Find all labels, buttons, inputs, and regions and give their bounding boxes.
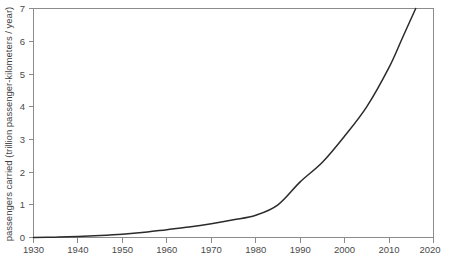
x-tick-label-2010: 2010 <box>379 244 400 255</box>
x-tick-label-1960: 1960 <box>156 244 177 255</box>
x-tick-label-1970: 1970 <box>201 244 222 255</box>
x-tick-label-2000: 2000 <box>334 244 355 255</box>
chart-background <box>0 0 449 270</box>
y-tick-label-1: 1 <box>20 199 25 210</box>
x-tick-label-1980: 1980 <box>245 244 266 255</box>
chart-canvas: 0 1 2 3 4 5 6 7 1930 1940 1950 1 <box>0 0 449 270</box>
y-tick-label-3: 3 <box>20 134 25 145</box>
x-tick-label-1990: 1990 <box>290 244 311 255</box>
x-tick-label-1940: 1940 <box>67 244 88 255</box>
x-tick-label-2020: 2020 <box>419 244 440 255</box>
x-tick-label-1950: 1950 <box>112 244 133 255</box>
y-tick-label-6: 6 <box>20 36 25 47</box>
y-axis-title: passengers carried (trillion passenger-k… <box>3 7 14 241</box>
x-tick-label-1930: 1930 <box>23 244 44 255</box>
y-tick-label-0: 0 <box>20 232 25 243</box>
y-tick-label-2: 2 <box>20 167 25 178</box>
line-chart: 0 1 2 3 4 5 6 7 1930 1940 1950 1 <box>0 0 449 270</box>
y-tick-label-7: 7 <box>20 3 25 14</box>
y-tick-label-5: 5 <box>20 69 25 80</box>
y-tick-label-4: 4 <box>20 101 25 112</box>
